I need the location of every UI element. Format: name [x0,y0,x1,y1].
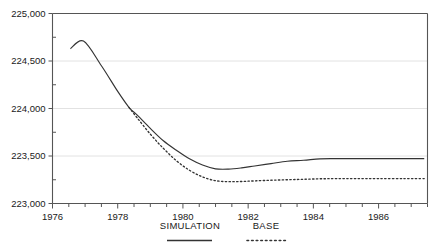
xtick-label: 1984 [303,211,324,222]
series-line-simulation [70,41,424,170]
line-chart: 223,000223,500224,000224,500225,000 1976… [0,0,441,250]
ytick-label: 224,500 [11,55,45,66]
chart-ytick-labels: 223,000223,500224,000224,500225,000 [11,8,45,209]
xtick-label: 1986 [368,211,389,222]
chart-series-layer [70,41,424,182]
legend-label-base: BASE [253,220,280,231]
chart-page: 223,000223,500224,000224,500225,000 1976… [0,0,441,250]
legend-label-simulation: SIMULATION [160,220,220,231]
series-line-base [129,108,424,182]
xtick-label: 1976 [42,211,63,222]
ytick-label: 223,500 [11,150,45,161]
chart-legend: SIMULATIONBASE [160,220,286,241]
chart-grid-layer [53,14,428,157]
ytick-label: 224,000 [11,103,45,114]
ytick-label: 225,000 [11,8,45,19]
xtick-label: 1978 [107,211,128,222]
ytick-label: 223,000 [11,198,45,209]
